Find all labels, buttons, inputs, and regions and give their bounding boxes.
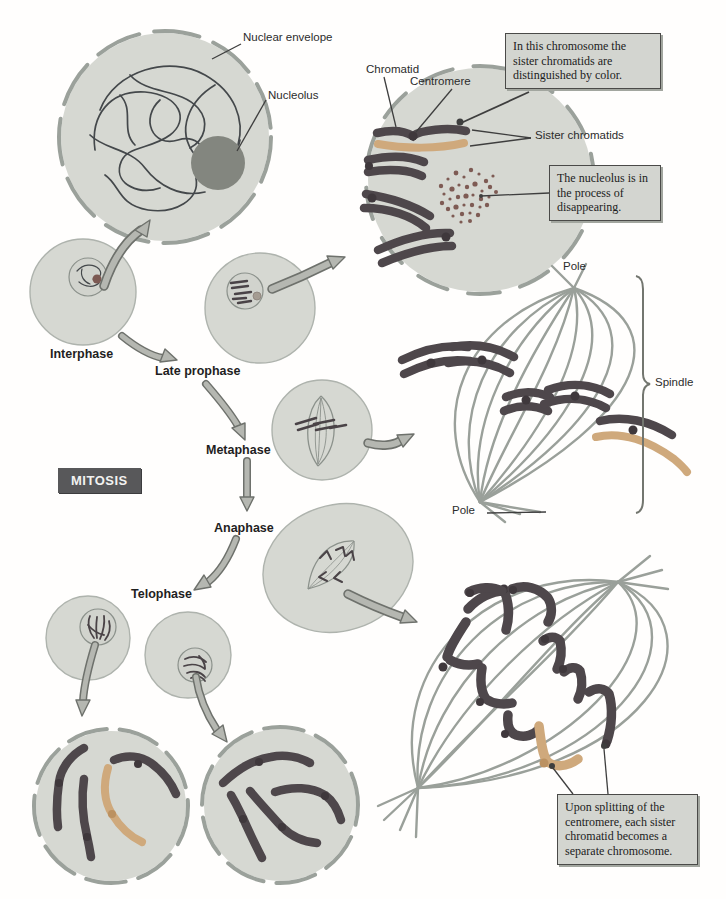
callout-sister-chromatid-color: In this chromosome the sister chromatids… <box>505 33 661 89</box>
interphase-enlarged-cell <box>59 31 271 243</box>
centromere-label: Centromere <box>410 75 471 88</box>
spindle-brace <box>636 276 650 513</box>
nucleolus-label: Nucleolus <box>268 89 319 102</box>
metaphase-cell <box>272 380 372 480</box>
anaphase-cell <box>246 485 429 652</box>
mitosis-diagram: Nuclear envelope Nucleolus Chromatid Cen… <box>0 0 726 899</box>
telophase-cell-2 <box>145 612 231 698</box>
centromere-dot <box>409 132 418 141</box>
nucleolus-small <box>253 292 261 300</box>
phase-label-interphase: Interphase <box>50 347 113 361</box>
chromatid-label: Chromatid <box>366 63 419 76</box>
nucleus <box>69 258 107 296</box>
callout-nucleolus-disappearing: The nucleolus is in the process of disap… <box>549 165 661 221</box>
phase-label-metaphase: Metaphase <box>206 443 271 457</box>
late-prophase-cell <box>205 253 315 363</box>
callout-centromere-split: Upon splitting of the centromere, each s… <box>557 794 698 865</box>
daughter-cell-2 <box>202 727 358 883</box>
pole-top-label: Pole <box>563 260 586 273</box>
mitosis-title-box: MITOSIS <box>58 468 141 493</box>
daughter-cell-1 <box>34 729 188 883</box>
nucleolus-shape <box>191 136 245 190</box>
nucleolus-small <box>93 275 102 284</box>
nuclear-envelope-label: Nuclear envelope <box>243 31 333 44</box>
spindle-label: Spindle <box>655 376 693 389</box>
phase-label-telophase: Telophase <box>131 587 192 601</box>
phase-label-anaphase: Anaphase <box>214 521 274 535</box>
phase-label-late-prophase: Late prophase <box>155 364 240 378</box>
pole-bottom-label: Pole <box>452 504 475 517</box>
sister-chromatids-label: Sister chromatids <box>535 129 624 142</box>
metaphase-enlarged-spindle <box>402 264 687 522</box>
nucleus <box>227 273 263 309</box>
